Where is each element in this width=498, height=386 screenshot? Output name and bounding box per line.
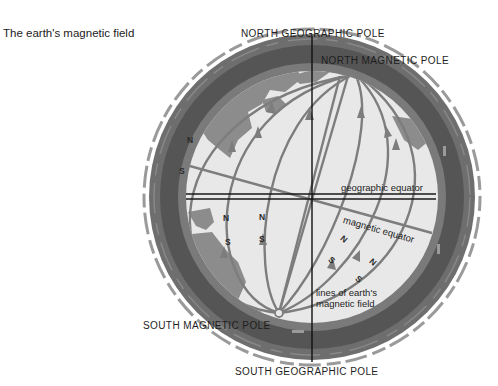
compass-s-left-inner: S: [225, 237, 231, 247]
compass-n-center-left: N: [259, 212, 265, 222]
compass-s-left-atmosphere: S: [179, 166, 185, 176]
south-geographic-pole-label: SOUTH GEOGRAPHIC POLE: [235, 366, 378, 377]
compass-n-left-atmosphere: N: [187, 135, 193, 145]
north-magnetic-pole-marker: [350, 73, 354, 77]
compass-s-center-left: S: [259, 234, 265, 244]
north-magnetic-pole-label: NORTH MAGNETIC POLE: [321, 55, 449, 66]
north-geographic-pole-label: NORTH GEOGRAPHIC POLE: [241, 28, 385, 39]
field-lines-label: lines of earth's magnetic field: [316, 287, 377, 309]
south-magnetic-pole-label: SOUTH MAGNETIC POLE: [143, 320, 271, 331]
south-magnetic-pole-marker: [275, 309, 283, 317]
compass-n-left-inner: N: [223, 213, 229, 223]
geographic-equator-label: geographic equator: [341, 182, 423, 193]
